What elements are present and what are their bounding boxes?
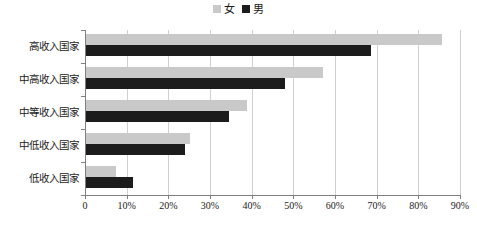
chart-figure: 女 男 010%20%30%40%50%60%70%80%90% 高收入国家中高… (0, 0, 477, 228)
figure-caption (0, 219, 477, 228)
y-axis-label: 高收入国家 (0, 41, 79, 53)
y-axis-labels: 高收入国家中高收入国家中等收入国家中低收入国家低收入国家 (0, 0, 477, 228)
y-axis-label: 低收入国家 (0, 173, 79, 185)
y-axis-label: 中低收入国家 (0, 140, 79, 152)
y-axis-label: 中等收入国家 (0, 107, 79, 119)
y-axis-label: 中高收入国家 (0, 74, 79, 86)
